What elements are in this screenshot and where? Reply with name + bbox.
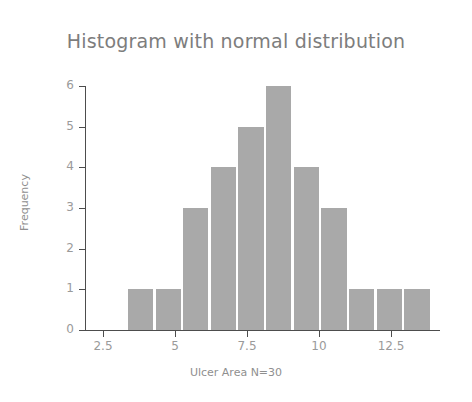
y-axis-tick bbox=[79, 86, 85, 87]
histogram-bar bbox=[404, 289, 429, 330]
x-axis-tick-label: 7.5 bbox=[227, 339, 267, 353]
x-axis-line bbox=[85, 330, 440, 331]
y-axis-tick-label: 1 bbox=[54, 281, 74, 295]
histogram-bar bbox=[321, 208, 346, 330]
x-axis-tick bbox=[319, 331, 320, 337]
y-axis-tick-label: 2 bbox=[54, 241, 74, 255]
histogram-bar bbox=[238, 127, 263, 330]
x-axis-tick bbox=[391, 331, 392, 337]
histogram-bar bbox=[377, 289, 402, 330]
x-axis-tick bbox=[175, 331, 176, 337]
histogram-bar bbox=[156, 289, 181, 330]
x-axis-tick-label: 2.5 bbox=[83, 339, 123, 353]
y-axis-tick-label: 6 bbox=[54, 78, 74, 92]
y-axis-tick bbox=[79, 208, 85, 209]
histogram-bar bbox=[266, 86, 291, 330]
histogram-bar bbox=[211, 167, 236, 330]
y-axis-tick-label: 5 bbox=[54, 119, 74, 133]
y-axis-tick-label: 4 bbox=[54, 159, 74, 173]
plot-area: 0123456 2.557.51012.5 bbox=[0, 0, 472, 402]
y-axis-tick bbox=[79, 167, 85, 168]
y-axis-tick bbox=[79, 127, 85, 128]
x-axis-tick-label: 12.5 bbox=[371, 339, 411, 353]
y-axis-line bbox=[85, 86, 86, 331]
x-axis-tick-label: 5 bbox=[155, 339, 195, 353]
x-axis-tick bbox=[103, 331, 104, 337]
y-axis-tick bbox=[79, 249, 85, 250]
histogram-bar bbox=[128, 289, 153, 330]
y-axis-tick-label: 3 bbox=[54, 200, 74, 214]
y-axis-tick-label: 0 bbox=[54, 322, 74, 336]
histogram-bar bbox=[294, 167, 319, 330]
histogram-bar bbox=[349, 289, 374, 330]
histogram-figure: Histogram with normal distribution Frequ… bbox=[0, 0, 472, 402]
histogram-bar bbox=[183, 208, 208, 330]
y-axis-tick bbox=[79, 330, 85, 331]
x-axis-tick-label: 10 bbox=[299, 339, 339, 353]
y-axis-tick bbox=[79, 289, 85, 290]
x-axis-tick bbox=[247, 331, 248, 337]
